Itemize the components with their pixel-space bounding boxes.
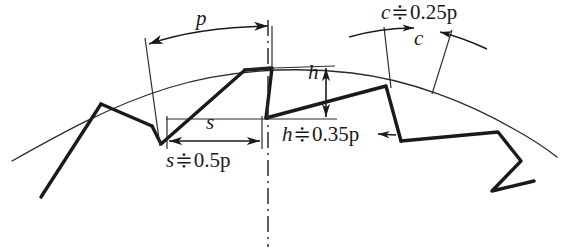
clearance-relation-value: 0.25p [410, 0, 457, 24]
h-relation-leader [378, 134, 396, 135]
height-label: h [308, 62, 319, 83]
saw-tooth-diagram: p c h s c≑0.25p h≑0.35p s≑0.5p [0, 0, 581, 250]
height-relation-label: h≑0.35p [282, 124, 359, 145]
c-dimension-arc [349, 28, 414, 37]
clearance-relation-label: c≑0.25p [381, 2, 457, 23]
clearance-label: c [414, 28, 423, 49]
height-relation-value: 0.35p [312, 122, 359, 146]
c-extension-right [432, 30, 452, 94]
width-relation-var: s [166, 148, 174, 172]
tooth-flank-left-top [101, 104, 152, 126]
height-relation-var: h [282, 122, 293, 146]
p-dimension-arc [149, 26, 268, 44]
tooth-3-profile [401, 132, 534, 191]
width-relation-symbol: ≑ [174, 148, 194, 172]
pitch-label: p [196, 8, 207, 29]
width-relation-value: 0.5p [194, 148, 231, 172]
clearance-relation-symbol: ≑ [390, 0, 410, 24]
width-relation-label: s≑0.5p [166, 150, 231, 171]
clearance-relation-var: c [381, 0, 390, 24]
height-relation-symbol: ≑ [293, 122, 313, 146]
width-label: s [206, 112, 214, 133]
tooth-flank-left-outer [41, 104, 101, 197]
